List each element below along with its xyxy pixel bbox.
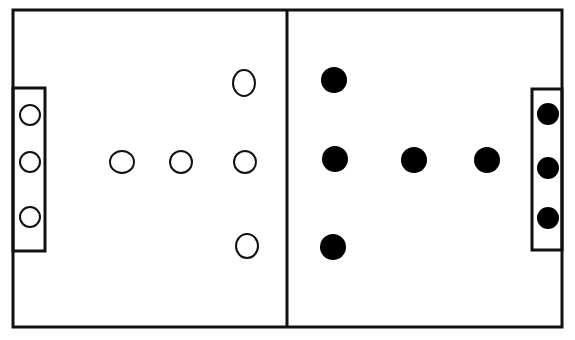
filled-circles-player-marker bbox=[537, 157, 559, 179]
open-circles-player-marker bbox=[233, 70, 255, 96]
open-circles-player-marker bbox=[20, 105, 40, 125]
filled-circles-player-marker bbox=[401, 147, 427, 173]
open-circles-player-marker bbox=[110, 151, 134, 173]
filled-circles-player-marker bbox=[322, 146, 348, 172]
filled-circles-player-marker bbox=[537, 207, 559, 229]
field-diagram bbox=[0, 0, 575, 340]
open-circles-player-marker bbox=[20, 152, 40, 172]
players bbox=[20, 67, 559, 260]
filled-circles-player-marker bbox=[321, 67, 347, 93]
open-circles-player-marker bbox=[20, 207, 40, 227]
open-circles-player-marker bbox=[236, 234, 258, 258]
filled-circles-player-marker bbox=[474, 147, 500, 173]
filled-circles-player-marker bbox=[537, 103, 559, 125]
open-circles-player-marker bbox=[170, 151, 192, 173]
open-circles-player-marker bbox=[234, 151, 256, 173]
filled-circles-player-marker bbox=[320, 234, 346, 260]
